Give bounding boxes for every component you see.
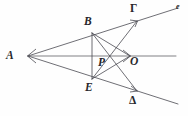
- figure-canvas: [0, 0, 188, 116]
- point-label-P: P: [98, 57, 105, 69]
- point-label-delta: Δ: [129, 95, 136, 107]
- point-label-E: E: [85, 82, 93, 94]
- chord-E-Gamma: [92, 21, 137, 79]
- point-label-gamma: Γ: [130, 3, 137, 15]
- arrowhead-at-Gamma: [130, 20, 138, 27]
- point-label-e: e: [176, 3, 180, 11]
- chord-B-O: [92, 33, 130, 56]
- ray-A-Gamma-e: [28, 8, 178, 56]
- point-label-O: O: [130, 56, 138, 68]
- point-label-A: A: [6, 50, 14, 62]
- geometry-figure: A B Γ e P O E Δ: [0, 0, 188, 116]
- point-label-B: B: [84, 16, 92, 28]
